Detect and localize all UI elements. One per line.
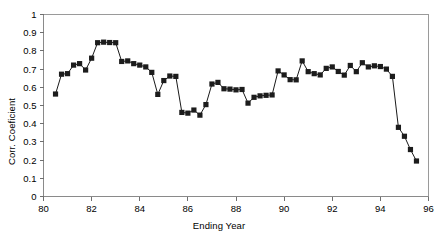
y-tick-label: 0.8: [23, 45, 36, 56]
y-tick-label: 0: [31, 191, 36, 202]
data-point-marker: [197, 113, 202, 118]
data-point-marker: [366, 64, 371, 69]
data-point-marker: [239, 87, 244, 92]
data-point-marker: [137, 63, 142, 68]
data-point-marker: [245, 101, 250, 106]
data-point-marker: [59, 72, 64, 77]
data-point-marker: [348, 63, 353, 68]
data-point-marker: [378, 64, 383, 69]
data-point-marker: [414, 158, 419, 163]
data-point-marker: [131, 61, 136, 66]
x-tick-label: 84: [134, 203, 145, 214]
data-point-marker: [300, 58, 305, 63]
data-point-marker: [167, 73, 172, 78]
data-point-marker: [173, 74, 178, 79]
data-point-marker: [89, 56, 94, 61]
y-tick-label: 0.7: [23, 64, 36, 75]
y-tick-label: 0.5: [23, 100, 36, 111]
data-point-marker: [215, 80, 220, 85]
data-point-marker: [306, 69, 311, 74]
data-point-marker: [161, 78, 166, 83]
y-tick-label: 0.3: [23, 136, 36, 147]
y-axis-ticks: 00.10.20.30.40.50.60.70.80.91: [23, 9, 43, 202]
data-point-marker: [125, 58, 130, 63]
x-tick-label: 88: [231, 203, 242, 214]
data-point-marker: [203, 102, 208, 107]
x-tick-label: 80: [38, 203, 49, 214]
series-line: [56, 42, 417, 161]
data-point-marker: [263, 93, 268, 98]
data-point-marker: [324, 66, 329, 71]
x-tick-label: 90: [279, 203, 290, 214]
data-point-marker: [101, 40, 106, 45]
data-point-marker: [209, 81, 214, 86]
data-point-marker: [282, 72, 287, 77]
x-tick-label: 92: [327, 203, 338, 214]
data-point-marker: [65, 71, 70, 76]
data-point-marker: [372, 63, 377, 68]
data-point-marker: [384, 67, 389, 72]
x-axis-title: Ending Year: [0, 220, 438, 231]
data-point-marker: [227, 87, 232, 92]
data-point-marker: [95, 40, 100, 45]
data-point-marker: [149, 70, 154, 75]
x-tick-label: 82: [86, 203, 97, 214]
data-point-marker: [185, 111, 190, 116]
data-point-marker: [77, 61, 82, 66]
x-tick-label: 86: [183, 203, 194, 214]
data-point-marker: [257, 93, 262, 98]
data-series: [53, 40, 419, 164]
x-axis-ticks: 808284868890929496: [38, 197, 434, 214]
data-point-marker: [318, 72, 323, 77]
data-point-marker: [336, 69, 341, 74]
data-point-marker: [107, 40, 112, 45]
data-point-marker: [276, 68, 281, 73]
chart-plot-area: 808284868890929496 00.10.20.30.40.50.60.…: [0, 0, 438, 240]
data-point-marker: [251, 95, 256, 100]
data-point-marker: [330, 64, 335, 69]
data-point-marker: [155, 92, 160, 97]
x-tick-label: 94: [375, 203, 386, 214]
data-point-marker: [288, 77, 293, 82]
chart-container: Corr. Coeficient 808284868890929496 00.1…: [0, 0, 438, 240]
data-point-marker: [269, 92, 274, 97]
data-point-marker: [113, 40, 118, 45]
data-point-marker: [221, 86, 226, 91]
data-point-marker: [354, 69, 359, 74]
data-point-marker: [143, 64, 148, 69]
y-tick-label: 0.1: [23, 173, 36, 184]
data-point-marker: [408, 147, 413, 152]
data-point-marker: [312, 71, 317, 76]
data-point-marker: [53, 91, 58, 96]
data-point-marker: [83, 67, 88, 72]
data-point-marker: [396, 125, 401, 130]
y-tick-label: 0.2: [23, 155, 36, 166]
y-tick-label: 1: [31, 9, 36, 20]
data-point-marker: [233, 87, 238, 92]
y-tick-label: 0.4: [23, 118, 36, 129]
data-point-marker: [179, 110, 184, 115]
data-point-marker: [191, 107, 196, 112]
data-point-marker: [390, 74, 395, 79]
data-point-marker: [402, 134, 407, 139]
y-tick-label: 0.6: [23, 82, 36, 93]
data-point-marker: [342, 73, 347, 78]
data-point-marker: [294, 77, 299, 82]
data-point-marker: [71, 63, 76, 68]
data-point-marker: [360, 60, 365, 65]
x-tick-label: 96: [423, 203, 434, 214]
y-tick-label: 0.9: [23, 27, 36, 38]
data-point-marker: [119, 59, 124, 64]
